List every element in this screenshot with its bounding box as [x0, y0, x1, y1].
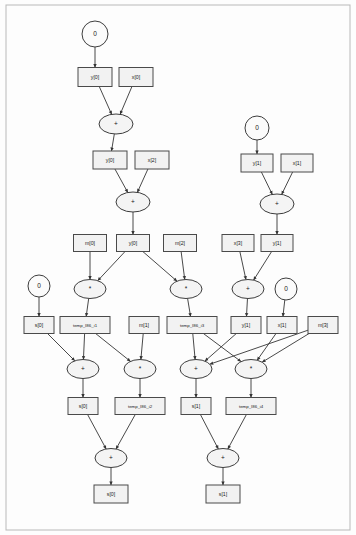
graph-node-s0out[interactable]: s[0]	[94, 485, 128, 503]
graph-edge	[141, 334, 143, 360]
node-label: +	[221, 454, 225, 461]
graph-node-add4[interactable]: +	[232, 280, 264, 299]
graph-node-s0a[interactable]: s[0]	[24, 317, 54, 334]
graph-node-add1[interactable]: +	[99, 114, 133, 134]
node-label: temp_I86_i2	[128, 404, 153, 409]
node-label: m[2]	[175, 240, 186, 246]
graph-edge	[282, 172, 293, 194]
node-label: +	[275, 200, 279, 207]
graph-node-t1[interactable]: temp_I86_i1	[60, 317, 110, 334]
dataflow-graph-svg: 0y[0]x[0]+y[0]x[2]+0y[1]x[1]+m[0]y[0]m[2…	[0, 0, 356, 535]
graph-edge	[181, 252, 185, 280]
graph-edge	[261, 172, 272, 194]
graph-node-s0b[interactable]: s[0]	[68, 398, 98, 415]
graph-edge	[120, 87, 132, 115]
node-label: m[3]	[318, 322, 329, 328]
node-label: 0	[255, 124, 259, 131]
graph-edge	[112, 134, 115, 151]
graph-node-y1c[interactable]: y[1]	[231, 317, 261, 334]
graph-node-c0d[interactable]: 0	[275, 278, 297, 300]
node-label: m[0]	[85, 240, 96, 246]
graph-edge	[240, 252, 246, 280]
node-label: 0	[93, 30, 97, 37]
graph-node-add6[interactable]: +	[180, 360, 212, 379]
graph-node-x3[interactable]: x[3]	[222, 235, 254, 252]
node-label: +	[246, 285, 250, 292]
graph-node-add3[interactable]: +	[260, 194, 294, 214]
graph-edge	[98, 252, 125, 281]
graph-edge	[228, 415, 247, 449]
graph-edge	[193, 334, 195, 360]
graph-edge	[115, 169, 128, 192]
graph-node-add2[interactable]: +	[116, 192, 150, 212]
graph-edge	[116, 415, 135, 449]
node-label: x[3]	[234, 240, 243, 246]
graph-node-x1a[interactable]: x[1]	[281, 154, 313, 172]
graph-edge	[88, 415, 107, 449]
graph-node-c0c[interactable]: 0	[28, 275, 50, 297]
node-label: y[0]	[91, 74, 100, 80]
graph-edge	[143, 252, 177, 282]
graph-edge	[283, 300, 285, 317]
graph-node-x0[interactable]: x[0]	[119, 68, 153, 87]
node-label: s[1]	[219, 491, 228, 497]
node-label: temp_I86_i3	[180, 323, 205, 328]
graph-node-t3[interactable]: temp_I86_i3	[167, 317, 217, 334]
node-label: y[0]	[129, 240, 138, 246]
node-label: temp_I86_i4	[239, 404, 264, 409]
node-label: 0	[284, 285, 288, 292]
graph-node-y0b[interactable]: y[0]	[93, 151, 127, 169]
graph-node-c0b[interactable]: 0	[245, 116, 269, 140]
graph-node-s1out[interactable]: s[1]	[206, 485, 240, 503]
graph-node-mul3[interactable]: *	[124, 360, 156, 379]
graph-edge	[188, 298, 191, 316]
edge-layer	[39, 47, 309, 485]
graph-node-y0a[interactable]: y[0]	[78, 68, 112, 87]
graph-node-x1b[interactable]: x[1]	[267, 317, 297, 334]
graph-node-m0[interactable]: m[0]	[74, 235, 107, 252]
graph-node-c0a[interactable]: 0	[82, 21, 108, 47]
node-label: x[1]	[293, 160, 302, 166]
node-layer: 0y[0]x[0]+y[0]x[2]+0y[1]x[1]+m[0]y[0]m[2…	[24, 21, 338, 503]
graph-edge	[210, 330, 308, 364]
graph-node-mul1[interactable]: *	[74, 280, 106, 299]
graph-node-y1b[interactable]: y[1]	[261, 235, 293, 252]
graph-edge	[96, 334, 131, 362]
graph-edge	[83, 334, 84, 360]
graph-node-s1a[interactable]: s[1]	[181, 398, 211, 415]
node-label: +	[194, 365, 198, 372]
graph-node-m1[interactable]: m[1]	[129, 317, 159, 334]
node-label: y[1]	[253, 160, 262, 166]
node-label: +	[109, 454, 113, 461]
node-label: +	[131, 198, 135, 205]
graph-edge	[48, 334, 75, 361]
graph-node-mul4[interactable]: *	[235, 360, 267, 379]
graph-node-add8[interactable]: +	[207, 449, 239, 468]
graph-node-t2[interactable]: temp_I86_i2	[115, 398, 165, 415]
node-label: m[1]	[139, 322, 150, 328]
node-label: temp_I86_i1	[73, 323, 98, 328]
graph-edge	[246, 298, 247, 316]
node-label: x[2]	[148, 157, 157, 163]
node-label: s[0]	[79, 403, 88, 409]
graph-edge	[86, 298, 89, 316]
graph-node-x2[interactable]: x[2]	[135, 151, 169, 169]
node-label: +	[81, 365, 85, 372]
graph-node-m2[interactable]: m[2]	[164, 235, 197, 252]
node-label: y[1]	[273, 240, 282, 246]
node-label: y[0]	[106, 157, 115, 163]
graph-node-add7[interactable]: +	[95, 449, 127, 468]
node-label: x[0]	[132, 74, 141, 80]
graph-edge	[137, 169, 148, 192]
node-label: s[0]	[35, 322, 44, 328]
node-label: y[1]	[242, 322, 251, 328]
graph-node-y1a[interactable]: y[1]	[241, 154, 273, 172]
graph-node-m3[interactable]: m[3]	[308, 317, 338, 334]
graph-edge	[99, 87, 111, 115]
graph-node-add5[interactable]: +	[67, 360, 99, 379]
graph-node-y0c[interactable]: y[0]	[117, 235, 150, 252]
graph-node-t4[interactable]: temp_I86_i4	[226, 398, 276, 415]
graph-node-mul2[interactable]: *	[170, 280, 202, 299]
node-label: 0	[37, 282, 41, 289]
diagram-frame	[6, 5, 350, 530]
